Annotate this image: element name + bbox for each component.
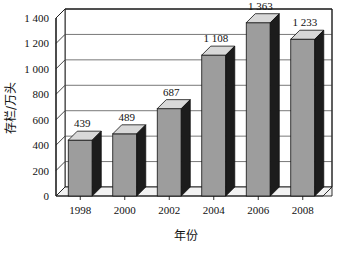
bar-front-face[interactable]: [113, 134, 137, 196]
bar-value-label: 1 363: [248, 0, 273, 12]
y-tick-label: 200: [33, 165, 50, 177]
plot-area: 02004006008001 0001 2001 400439199848920…: [24, 0, 332, 216]
y-tick-label: 400: [33, 139, 50, 151]
bar-front-face[interactable]: [68, 140, 92, 196]
bar-group[interactable]: [157, 100, 190, 196]
x-tick-label: 2004: [203, 204, 226, 216]
x-axis-title: 年份: [174, 229, 198, 243]
bar-group[interactable]: [291, 30, 324, 196]
bar-side-face[interactable]: [181, 100, 190, 196]
bar-front-face[interactable]: [157, 109, 181, 196]
y-tick-label: 1 000: [24, 63, 49, 75]
y-tick-label: 800: [33, 88, 50, 100]
bar-side-face[interactable]: [226, 46, 235, 196]
y-tick-label: 0: [44, 190, 50, 202]
bar-front-face[interactable]: [246, 23, 270, 196]
bar-group[interactable]: [202, 46, 235, 196]
bar-group[interactable]: [246, 14, 279, 196]
bar-front-face[interactable]: [291, 39, 315, 196]
bar-group[interactable]: [68, 131, 101, 196]
bar-value-label: 1 108: [203, 32, 228, 44]
bar-value-label: 1 233: [292, 16, 317, 28]
bar-value-label: 687: [163, 86, 180, 98]
bar-front-face[interactable]: [202, 55, 226, 196]
bar-group[interactable]: [113, 125, 146, 196]
x-tick-label: 1998: [69, 204, 92, 216]
x-tick-label: 2000: [114, 204, 137, 216]
y-tick-label: 1 200: [24, 37, 49, 49]
bar-side-face[interactable]: [270, 14, 279, 196]
y-tick-label: 600: [33, 114, 50, 126]
y-axis-title: 存栏/万头: [3, 82, 18, 134]
bar-value-label: 489: [119, 111, 136, 123]
x-tick-label: 2002: [158, 204, 180, 216]
y-tick-label: 1 400: [24, 12, 49, 24]
x-tick-label: 2008: [292, 204, 315, 216]
bar-side-face[interactable]: [315, 30, 324, 196]
bar-side-face[interactable]: [92, 131, 101, 196]
bar-value-label: 439: [74, 117, 91, 129]
bar-chart-figure: 存栏/万头 02004006008001 0001 2001 400439199…: [0, 0, 348, 255]
left-wall: [56, 9, 65, 196]
bar-side-face[interactable]: [137, 125, 146, 196]
x-tick-label: 2006: [247, 204, 270, 216]
chart-canvas: 存栏/万头 02004006008001 0001 2001 400439199…: [0, 0, 348, 255]
